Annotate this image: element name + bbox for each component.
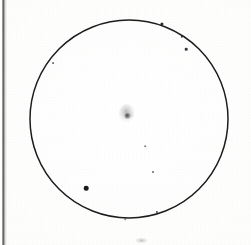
field-of-view-circle	[0, 0, 251, 245]
star-right-upper	[185, 48, 188, 51]
star-lower-centre	[152, 171, 154, 173]
star-left-faint	[52, 62, 54, 64]
star-lower-left-bright	[84, 186, 89, 191]
scanned-sketch-page: Hand-drawn telescope field-of-view circl…	[0, 0, 251, 245]
star-below-centre	[144, 145, 146, 147]
star-bottom-faint	[124, 218, 126, 220]
